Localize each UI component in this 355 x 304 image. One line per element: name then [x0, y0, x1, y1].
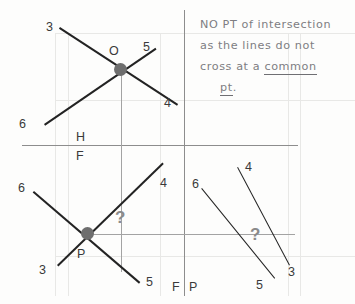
- profile-view-label-4: 4: [245, 161, 252, 174]
- projector-horizontal-through-p: [88, 234, 295, 235]
- annotation-line-2: as the lines do not: [200, 35, 355, 56]
- profile-view-label-5: 5: [256, 279, 263, 292]
- intersection-dot-o: [114, 63, 127, 76]
- front-view-label-6: 6: [18, 182, 25, 195]
- intersection-dot-p: [81, 227, 94, 240]
- guide-line-horizontal-low: [55, 256, 355, 257]
- profile-view-question-mark: ?: [250, 226, 260, 243]
- profile-view-label-6: 6: [192, 178, 199, 191]
- annotation-line-4: pt.: [200, 77, 355, 98]
- profile-view-label-3: 3: [288, 266, 295, 279]
- fold-label-f-lower: F: [172, 281, 180, 294]
- top-view-label-6: 6: [19, 118, 26, 131]
- fold-line-h-f: [22, 145, 298, 146]
- guide-line-horizontal-mid: [55, 100, 355, 101]
- guide-line-vertical-left: [55, 33, 56, 296]
- annotation-line-3-plain: cross at a: [200, 60, 264, 73]
- top-view-label-3: 3: [46, 21, 53, 34]
- top-view-label-4: 4: [164, 97, 171, 110]
- front-view-label-5: 5: [146, 276, 153, 289]
- worksheet-canvas: 3 5 4 6 O H F 4 6 3 5 P ? 4 6 3 5 ? F P …: [0, 0, 355, 304]
- front-view-label-4: 4: [160, 177, 167, 190]
- annotation-line-4-underlined: pt: [220, 81, 233, 96]
- top-view-label-5: 5: [143, 41, 150, 54]
- handwritten-annotation: NO PT of intersection as the lines do no…: [200, 14, 355, 98]
- annotation-line-3: cross at a common: [200, 56, 355, 77]
- profile-view-line-4-3: [237, 167, 290, 265]
- fold-label-p-lower: P: [189, 281, 197, 294]
- annotation-line-1: NO PT of intersection: [200, 14, 355, 35]
- fold-line-f-p: [184, 10, 185, 296]
- fold-label-f-upper: F: [76, 150, 84, 163]
- front-view-question-mark: ?: [115, 209, 125, 226]
- front-view-label-3: 3: [39, 264, 46, 277]
- front-view-line-3-4: [57, 163, 163, 267]
- annotation-line-3-underlined: common: [264, 60, 316, 75]
- annotation-line-4-tail: .: [233, 81, 237, 94]
- point-label-p: P: [77, 248, 85, 261]
- fold-label-h: H: [76, 131, 85, 144]
- projector-vertical-through-o-p: [121, 70, 122, 272]
- top-view-line-6-5: [44, 48, 156, 126]
- point-label-o: O: [109, 45, 119, 58]
